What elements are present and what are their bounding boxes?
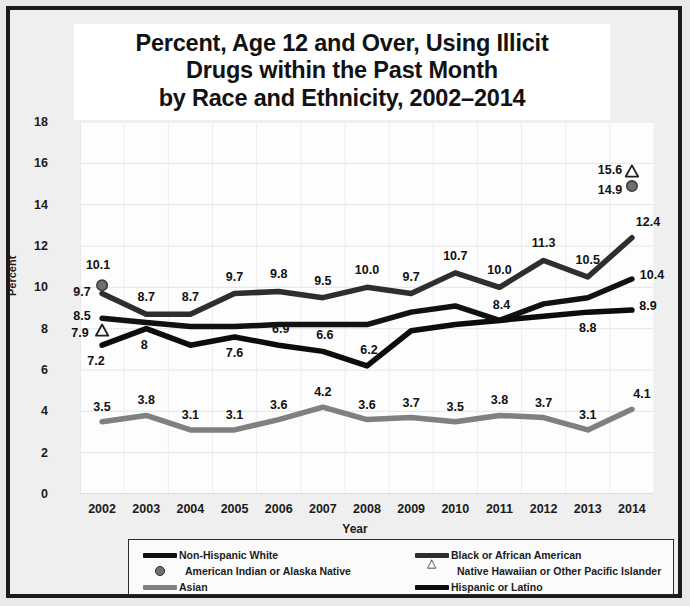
legend-dot-swatch bbox=[155, 566, 165, 576]
data-point-label: 3.7 bbox=[402, 396, 419, 410]
data-point-label: 3.8 bbox=[138, 393, 155, 407]
title-line-3: by Race and Ethnicity, 2002–2014 bbox=[78, 85, 606, 112]
legend-item-label: Hispanic or Latino bbox=[451, 581, 543, 593]
legend-item-label: Non-Hispanic White bbox=[179, 549, 278, 561]
data-point-label: 3.5 bbox=[447, 400, 464, 414]
legend-item-label: Black or African American bbox=[451, 549, 582, 561]
y-tick-label: 10 bbox=[14, 280, 48, 294]
legend-item-label: Asian bbox=[179, 581, 208, 593]
data-point-label: 7.6 bbox=[226, 346, 243, 360]
y-tick-label: 2 bbox=[14, 446, 48, 460]
chart-legend: Non-Hispanic WhiteBlack or African Ameri… bbox=[128, 539, 674, 595]
data-point-label: 14.9 bbox=[598, 183, 622, 197]
y-tick-label: 12 bbox=[14, 239, 48, 253]
data-point-label: 12.4 bbox=[636, 215, 660, 229]
x-axis-label: Year bbox=[10, 522, 690, 536]
data-point-label: 8.5 bbox=[73, 309, 90, 323]
data-point-label: 9.5 bbox=[314, 274, 331, 288]
data-point-label: 3.5 bbox=[93, 400, 110, 414]
legend-line-swatch bbox=[143, 553, 177, 558]
data-point-label: 10.1 bbox=[86, 258, 110, 272]
data-point-label: 6.9 bbox=[272, 322, 289, 336]
legend-row: AsianHispanic or Latino bbox=[129, 578, 673, 596]
data-point-label: 8.9 bbox=[639, 299, 656, 313]
y-tick-label: 4 bbox=[14, 404, 48, 418]
data-point-label: 10.5 bbox=[576, 253, 600, 267]
data-point-label: 7.9 bbox=[71, 326, 88, 340]
data-point-label: 3.1 bbox=[226, 408, 243, 422]
data-point-label: 3.6 bbox=[358, 398, 375, 412]
data-point-label: 15.6 bbox=[598, 163, 622, 177]
data-point-label: 10.4 bbox=[640, 268, 664, 282]
legend-line-icon bbox=[413, 578, 451, 596]
legend-line-swatch bbox=[415, 585, 449, 590]
legend-line-swatch bbox=[143, 585, 177, 590]
data-point-label: 3.7 bbox=[535, 396, 552, 410]
x-tick-label: 2014 bbox=[602, 502, 662, 516]
data-point-label: 4.1 bbox=[633, 387, 650, 401]
legend-line-icon bbox=[141, 578, 179, 596]
data-point-label: 8.8 bbox=[579, 321, 596, 335]
legend-item[interactable]: Hispanic or Latino bbox=[401, 578, 673, 596]
data-point-label: 10.7 bbox=[443, 249, 467, 263]
y-tick-label: 0 bbox=[14, 487, 48, 501]
y-tick-label: 18 bbox=[14, 115, 48, 129]
data-point-label: 3.1 bbox=[579, 408, 596, 422]
title-line-1: Percent, Age 12 and Over, Using Illicit bbox=[78, 30, 606, 57]
figure-frame: Percent, Age 12 and Over, Using Illicit … bbox=[6, 6, 682, 598]
data-point-label: 7.2 bbox=[87, 354, 104, 368]
legend-item-label: American Indian or Alaska Native bbox=[179, 565, 351, 577]
data-point-label: 8 bbox=[141, 338, 148, 352]
chart-figure: Percent, Age 12 and Over, Using Illicit … bbox=[10, 10, 678, 594]
y-tick-label: 6 bbox=[14, 363, 48, 377]
data-point-label: 11.3 bbox=[532, 236, 556, 250]
legend-triangle-swatch bbox=[427, 567, 437, 576]
data-point-label: 9.8 bbox=[270, 267, 287, 281]
data-point-label: 6.2 bbox=[360, 343, 377, 357]
data-point-label: 3.1 bbox=[182, 408, 199, 422]
data-point-label: 10.0 bbox=[355, 263, 379, 277]
data-point-label: 3.8 bbox=[491, 393, 508, 407]
data-point-label: 3.6 bbox=[270, 398, 287, 412]
data-point-label: 9.7 bbox=[226, 270, 243, 284]
data-point-label: 6.6 bbox=[316, 328, 333, 342]
legend-item-label: Native Hawaiian or Other Pacific Islande… bbox=[451, 565, 661, 577]
data-point-label: 8.7 bbox=[138, 290, 155, 304]
legend-item[interactable]: Asian bbox=[129, 578, 401, 596]
y-tick-label: 16 bbox=[14, 156, 48, 170]
data-point-label: 8.7 bbox=[182, 290, 199, 304]
y-tick-label: 8 bbox=[14, 322, 48, 336]
y-tick-label: 14 bbox=[14, 198, 48, 212]
chart-title: Percent, Age 12 and Over, Using Illicit … bbox=[74, 24, 610, 120]
data-point-label: 8.4 bbox=[493, 298, 510, 312]
data-point-label: 10.0 bbox=[487, 263, 511, 277]
title-line-2: Drugs within the Past Month bbox=[78, 57, 606, 84]
data-point-label: 9.7 bbox=[73, 285, 90, 299]
data-point-label: 9.7 bbox=[402, 270, 419, 284]
data-point-label: 4.2 bbox=[314, 385, 331, 399]
